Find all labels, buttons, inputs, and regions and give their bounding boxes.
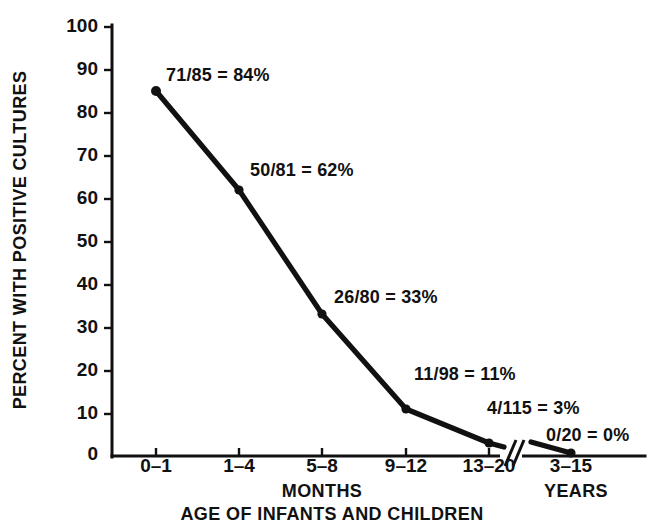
y-axis-title: PERCENT WITH POSITIVE CULTURES	[10, 71, 30, 410]
data-point-1-4	[234, 185, 243, 194]
annotation-13-20: 4/115 = 3%	[487, 398, 580, 418]
x-tick-label-0-1: 0–1	[140, 455, 172, 476]
data-point-9-12	[401, 404, 410, 413]
y-tick-label-80: 80	[77, 101, 98, 122]
y-tick-label-0: 0	[87, 443, 98, 464]
x-tick-label-3-15: 3–15	[550, 455, 593, 476]
line-chart: 100 90 80 70 60 50 40 30 20 10 0 PERCENT…	[0, 0, 665, 524]
data-point-3-15	[566, 448, 575, 457]
x-tick-label-13-20: 13–20	[463, 455, 516, 476]
annotation-3-15: 0/20 = 0%	[546, 425, 629, 445]
y-tick-label-60: 60	[77, 187, 98, 208]
x-axis-title: AGE OF INFANTS AND CHILDREN	[180, 504, 483, 524]
y-axis: 100 90 80 70 60 50 40 30 20 10 0 PERCENT…	[10, 15, 112, 464]
x-tick-label-1-4: 1–4	[223, 455, 255, 476]
x-group-label-months: MONTHS	[282, 481, 362, 501]
chart-figure: 100 90 80 70 60 50 40 30 20 10 0 PERCENT…	[0, 0, 665, 524]
annotation-1-4: 50/81 = 62%	[250, 160, 354, 180]
data-point-5-8	[317, 309, 326, 318]
data-point-0-1	[151, 86, 161, 96]
y-tick-label-20: 20	[77, 359, 98, 380]
x-tick-label-5-8: 5–8	[306, 455, 338, 476]
data-point-13-20	[484, 438, 493, 447]
y-tick-label-90: 90	[77, 58, 98, 79]
annotation-9-12: 11/98 = 11%	[414, 364, 516, 384]
annotation-5-8: 26/80 = 33%	[334, 287, 438, 307]
y-tick-label-10: 10	[77, 402, 98, 423]
y-tick-label-30: 30	[77, 316, 98, 337]
series-line-months	[156, 91, 489, 443]
x-tick-label-9-12: 9–12	[385, 455, 427, 476]
x-group-label-years: YEARS	[544, 481, 608, 501]
y-tick-label-50: 50	[77, 230, 98, 251]
y-tick-label-40: 40	[77, 273, 98, 294]
y-tick-label-100: 100	[66, 15, 98, 36]
annotation-0-1: 71/85 = 84%	[166, 65, 270, 85]
point-annotations: 71/85 = 84% 50/81 = 62% 26/80 = 33% 11/9…	[166, 65, 629, 445]
y-tick-label-70: 70	[77, 144, 98, 165]
